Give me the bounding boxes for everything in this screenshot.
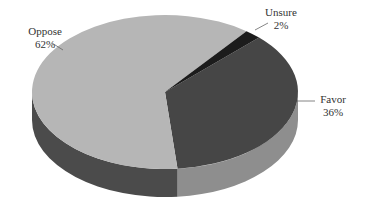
- label-favor-pct: 36%: [313, 106, 353, 119]
- pie-top-slices: [32, 15, 298, 169]
- label-favor: Favor 36%: [313, 93, 353, 119]
- label-unsure-name: Unsure: [261, 6, 301, 19]
- label-oppose-name: Oppose: [20, 25, 70, 38]
- label-oppose: Oppose 62%: [20, 25, 70, 51]
- label-unsure: Unsure 2%: [261, 6, 301, 32]
- label-favor-name: Favor: [313, 93, 353, 106]
- label-oppose-pct: 62%: [20, 38, 70, 51]
- label-unsure-pct: 2%: [261, 19, 301, 32]
